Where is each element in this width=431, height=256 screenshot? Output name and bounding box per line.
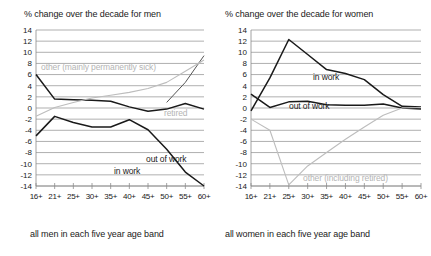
x-axis-tick-label: 35+ <box>320 192 333 201</box>
y-axis-tick-label: 0 <box>28 104 33 113</box>
x-axis-tick-label: 40+ <box>339 192 352 201</box>
y-axis-tick-label: -8 <box>240 148 248 157</box>
y-axis-tick-label: -2 <box>25 115 33 124</box>
x-axis-tick-label: 25+ <box>67 192 80 201</box>
annotation-label: in work <box>114 166 141 176</box>
x-axis-tick-label: 60+ <box>415 192 428 201</box>
y-axis-tick-label: 6 <box>28 70 33 79</box>
chart-panel-women: % change over the decade for women 14121… <box>215 0 431 256</box>
y-axis-tick-label: -10 <box>235 160 247 169</box>
annotation-label: out of work <box>289 101 330 111</box>
y-axis-tick-label: 4 <box>243 82 248 91</box>
y-axis-tick-label: 8 <box>243 59 248 68</box>
y-axis-tick-label: -10 <box>20 160 32 169</box>
y-axis-tick-label: 4 <box>28 82 33 91</box>
y-axis-tick-label: -8 <box>25 148 33 157</box>
x-axis-tick-label: 40+ <box>123 192 136 201</box>
chart-svg-men: 14121086420-2-4-6-8-10-12-1416+21+25+30+… <box>36 30 204 200</box>
y-axis-tick-label: 10 <box>238 48 247 57</box>
chart-panel-men: % change over the decade for men 1412108… <box>0 0 215 256</box>
y-axis-tick-label: 6 <box>243 70 248 79</box>
chart-title-men: % change over the decade for men <box>24 9 161 19</box>
chart-title-women: % change over the decade for women <box>225 9 373 19</box>
annotation-label: out of work <box>146 154 187 164</box>
y-axis-tick-label: -4 <box>25 126 33 135</box>
y-axis-tick-label: -14 <box>20 182 32 191</box>
y-axis-tick-label: -4 <box>240 126 248 135</box>
x-axis-tick-label: 21+ <box>264 192 277 201</box>
x-axis-tick-label: 55+ <box>179 192 192 201</box>
y-axis-tick-label: -2 <box>240 115 248 124</box>
y-axis-tick-label: -6 <box>25 137 33 146</box>
x-axis-tick-label: 30+ <box>301 192 314 201</box>
x-axis-tick-label: 30+ <box>86 192 99 201</box>
x-axis-tick-label: 16+ <box>245 192 258 201</box>
x-axis-tick-label: 45+ <box>358 192 371 201</box>
x-axis-tick-label: 25+ <box>282 192 295 201</box>
annotation-label: retired <box>164 108 188 118</box>
plot-area-women: 14121086420-2-4-6-8-10-12-1416+21+25+30+… <box>251 30 421 200</box>
y-axis-tick-label: -14 <box>235 182 247 191</box>
y-axis-tick-label: -6 <box>240 137 248 146</box>
x-axis-tick-label: 16+ <box>30 192 43 201</box>
chart-svg-women: 14121086420-2-4-6-8-10-12-1416+21+25+30+… <box>251 30 421 200</box>
x-axis-tick-label: 50+ <box>160 192 173 201</box>
axis-caption-men: all men in each five year age band <box>30 229 164 239</box>
y-axis-tick-label: 14 <box>23 26 32 35</box>
y-axis-tick-label: 12 <box>238 37 247 46</box>
chart-page: % change over the decade for men 1412108… <box>0 0 431 256</box>
x-axis-tick-label: 55+ <box>396 192 409 201</box>
axis-caption-women: all women in each five year age band <box>225 229 370 239</box>
y-axis-tick-label: 2 <box>243 93 248 102</box>
y-axis-tick-label: 0 <box>243 104 248 113</box>
x-axis-tick-label: 21+ <box>48 192 61 201</box>
y-axis-tick-label: -12 <box>235 171 247 180</box>
x-axis-tick-label: 45+ <box>142 192 155 201</box>
y-axis-tick-label: 2 <box>28 93 33 102</box>
x-axis-tick-label: 60+ <box>198 192 211 201</box>
y-axis-tick-label: 10 <box>23 48 32 57</box>
annotation-label: other (mainly permanently sick) <box>41 62 156 72</box>
plot-area-men: 14121086420-2-4-6-8-10-12-1416+21+25+30+… <box>36 30 204 200</box>
x-axis-tick-label: 35+ <box>104 192 117 201</box>
y-axis-tick-label: -12 <box>20 171 32 180</box>
y-axis-tick-label: 14 <box>238 26 247 35</box>
y-axis-tick-label: 8 <box>28 59 33 68</box>
x-axis-tick-label: 50+ <box>377 192 390 201</box>
y-axis-tick-label: 12 <box>23 37 32 46</box>
annotation-label: other (including retired) <box>303 173 388 183</box>
annotation-label: in work <box>313 72 340 82</box>
